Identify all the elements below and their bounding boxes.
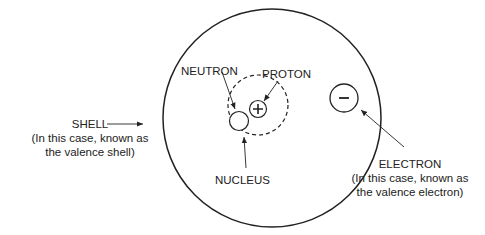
proton-label: PROTON — [262, 67, 311, 81]
electron-note-line1: (In this case, known as — [340, 171, 480, 185]
proton-arrow — [264, 81, 278, 101]
shell-note-line2: the valence shell) — [20, 145, 160, 159]
neutron-circle — [230, 112, 249, 131]
shell-note-line1: (In this case, known as — [20, 131, 160, 145]
nucleus-label: NUCLEUS — [215, 173, 270, 187]
shell-caption: SHELL (In this case, known as the valenc… — [20, 117, 160, 159]
electron-title: ELECTRON — [340, 157, 480, 171]
electron-caption: ELECTRON (In this case, known as the val… — [340, 157, 480, 199]
electron-arrow — [361, 110, 404, 147]
electron-note-line2: the valence electron) — [340, 185, 480, 199]
nucleus-arrow — [244, 137, 246, 168]
shell-title: SHELL — [20, 117, 160, 131]
neutron-label: NEUTRON — [181, 64, 238, 78]
